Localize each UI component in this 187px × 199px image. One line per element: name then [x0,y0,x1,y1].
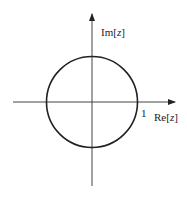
unit-marker-label: 1 [141,108,147,119]
im-prefix: Im[ [101,26,117,38]
z-plane-graphic [0,0,187,199]
re-prefix: Re[ [154,111,170,123]
real-axis-label: Re[z] [154,112,178,123]
im-suffix: ] [121,26,125,38]
imaginary-axis-label: Im[z] [101,27,125,38]
re-suffix: ] [174,111,178,123]
z-plane-diagram: Im[z] 1 Re[z] [0,0,187,199]
